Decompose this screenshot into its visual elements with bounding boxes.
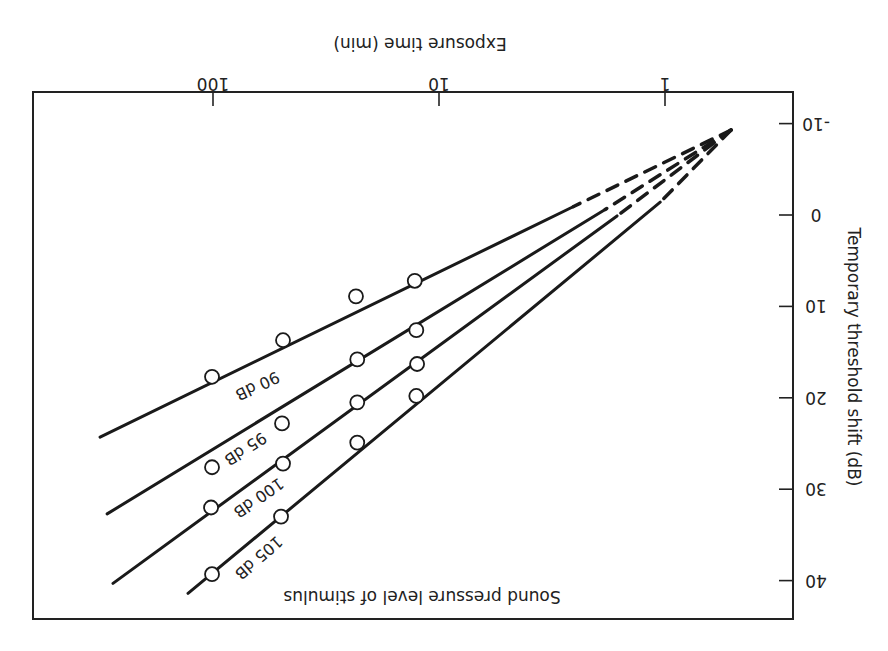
series-label: 105 dB (231, 532, 286, 584)
extrapolated-line (573, 130, 731, 207)
data-point (204, 500, 218, 514)
data-point (350, 395, 364, 409)
chart: 110100 -10010203040 90 dB95 dB100 dB105 … (0, 0, 888, 651)
y-tick-label: 20 (805, 388, 827, 408)
series-labels: 90 dB95 dB100 dB105 dB (221, 367, 287, 583)
y-axis-ticks: -10010203040 (779, 114, 830, 591)
y-axis-label: Temporary threshold shift (dB) (844, 227, 864, 487)
series-100-db (113, 130, 731, 583)
data-point (274, 510, 288, 524)
data-point (205, 567, 219, 581)
series-group (100, 130, 731, 593)
y-tick-label: 0 (811, 205, 822, 225)
fit-line (113, 216, 617, 583)
y-tick-label: -10 (802, 114, 830, 134)
data-point (349, 289, 363, 303)
x-axis-ticks: 110100 (197, 74, 671, 106)
fit-line (188, 202, 660, 593)
data-point (276, 333, 290, 347)
annotation-label: Sound pressure level of stimulus (283, 587, 560, 607)
y-tick-label: 10 (805, 296, 827, 316)
x-axis-label: Exposure time (min) (333, 34, 506, 54)
y-tick-label: 40 (805, 571, 827, 591)
fit-line (100, 207, 573, 437)
x-tick-label: 10 (428, 74, 450, 94)
data-point (408, 274, 422, 288)
data-point (409, 389, 423, 403)
series-label: 90 dB (232, 367, 282, 404)
data-point (350, 352, 364, 366)
x-tick-label: 1 (660, 74, 671, 94)
x-tick-label: 100 (197, 74, 229, 94)
data-point (350, 436, 364, 450)
series-95-db (107, 130, 731, 514)
data-point (275, 416, 289, 430)
data-point (410, 357, 424, 371)
series-105-db (188, 130, 731, 593)
data-point (205, 460, 219, 474)
series-label: 95 dB (221, 428, 270, 469)
y-tick-label: 30 (805, 479, 827, 499)
data-point (409, 323, 423, 337)
extrapolated-line (605, 130, 731, 210)
data-point (205, 370, 219, 384)
data-point (276, 457, 290, 471)
extrapolated-line (617, 130, 731, 216)
